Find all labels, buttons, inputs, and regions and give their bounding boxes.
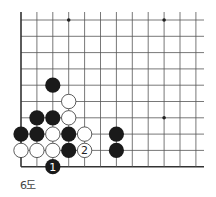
black-stone xyxy=(45,78,60,93)
move-number: 1 xyxy=(49,161,56,174)
go-board: 21 xyxy=(0,0,216,197)
move-number: 2 xyxy=(81,144,88,157)
star-point xyxy=(162,116,166,120)
star-point xyxy=(162,18,166,22)
black-stone xyxy=(29,127,44,142)
black-stone xyxy=(61,127,76,142)
black-stone xyxy=(45,110,60,125)
white-stone xyxy=(61,111,75,125)
black-stone xyxy=(29,110,44,125)
white-stone xyxy=(46,127,60,141)
white-stone xyxy=(14,143,28,157)
white-stone xyxy=(77,127,91,141)
white-stone xyxy=(30,143,44,157)
black-stone xyxy=(109,143,124,158)
black-stone xyxy=(61,143,76,158)
black-stone xyxy=(13,127,28,142)
white-stone xyxy=(46,143,60,157)
diagram-caption: 6도 xyxy=(20,176,36,192)
black-stone xyxy=(109,127,124,142)
white-stone xyxy=(61,94,75,108)
star-point xyxy=(67,18,71,22)
